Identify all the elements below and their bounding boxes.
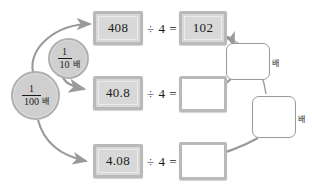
answer-slot-upper[interactable]: [226, 43, 270, 80]
dividend-box-row-3: 4.08: [93, 144, 143, 178]
dividend-value-row-2: 40.8: [106, 85, 130, 101]
dividend-value-row-3: 4.08: [106, 153, 130, 169]
dividend-box-row-2: 40.8: [93, 76, 143, 110]
fraction-one-hundredth: 1 100: [22, 84, 41, 107]
quotient-box-row-2[interactable]: [179, 76, 227, 112]
fraction-denominator: 10: [58, 58, 72, 70]
worksheet-diagram: 408 ÷ 4 = 102 40.8 ÷ 4 = 4.08 ÷ 4 = 1 10…: [0, 0, 312, 192]
fraction-one-tenth: 1 10: [58, 47, 72, 70]
fraction-numerator: 1: [60, 47, 69, 57]
multiplier-circle-one-hundredth: 1 100 배: [11, 71, 60, 120]
dividend-box-row-1: 408: [93, 11, 143, 45]
quotient-box-row-1[interactable]: 102: [179, 11, 227, 45]
box-inner-bevel: [184, 147, 222, 175]
multiplier-circle-one-tenth: 1 10 배: [48, 38, 89, 79]
fraction-denominator: 100: [22, 95, 41, 107]
box-inner-bevel: [184, 81, 222, 107]
multiplier-suffix-one-hundredth: 배: [42, 98, 49, 107]
answer-slot-lower-suffix: 배: [298, 113, 305, 124]
one-tenth-group: 1 10 배: [58, 47, 80, 70]
operator-row-1: ÷ 4 =: [147, 21, 177, 37]
multiplier-suffix-one-tenth: 배: [73, 61, 80, 70]
quotient-box-row-3[interactable]: [179, 142, 227, 180]
arrow-one-hundredth-to-4-08: [38, 120, 86, 161]
fraction-numerator: 1: [27, 84, 36, 94]
dividend-value-row-1: 408: [108, 20, 128, 36]
answer-slot-upper-suffix: 배: [272, 57, 279, 68]
quotient-value-row-1: 102: [193, 20, 213, 36]
answer-slot-lower[interactable]: [252, 96, 296, 138]
operator-row-2: ÷ 4 =: [147, 86, 177, 102]
operator-row-3: ÷ 4 =: [147, 154, 177, 170]
one-hundredth-group: 1 100 배: [22, 84, 49, 107]
